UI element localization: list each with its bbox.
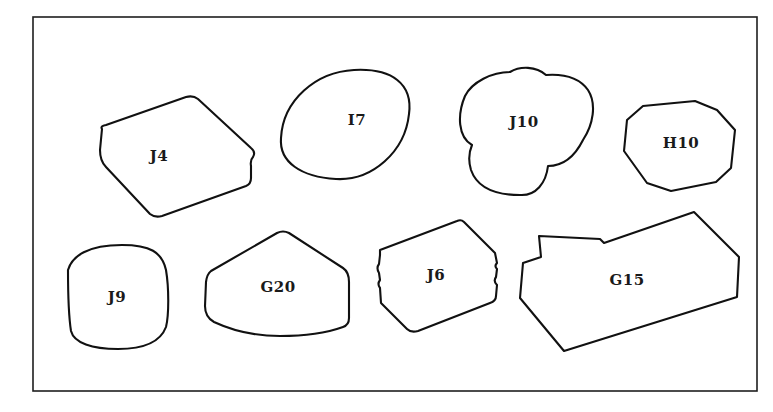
shape-h10: H10 [624,101,735,191]
shape-g20: G20 [205,232,349,337]
shape-g15: G15 [520,212,739,351]
specimen-figure: J4 I7 J10 H10 J9 G20 J6 [0,0,773,412]
shape-i7-label: I7 [348,111,366,129]
shape-j9-label: J9 [106,288,127,306]
shape-j10-label: J10 [507,113,538,131]
shape-i7-outline [281,70,410,179]
figure-canvas: J4 I7 J10 H10 J9 G20 J6 [0,0,773,412]
shape-h10-label: H10 [663,134,700,152]
shape-g20-label: G20 [260,278,295,296]
shape-j9: J9 [68,245,168,349]
shape-j4: J4 [100,96,254,216]
shape-g15-label: G15 [609,271,644,289]
shape-j10: J10 [460,68,593,195]
shape-j4-label: J4 [148,147,169,165]
shape-j6: J6 [378,220,498,331]
shape-j4-outline [100,96,254,216]
shape-j10-outline [460,68,593,195]
shape-j6-label: J6 [425,266,446,284]
shape-i7: I7 [281,70,410,179]
